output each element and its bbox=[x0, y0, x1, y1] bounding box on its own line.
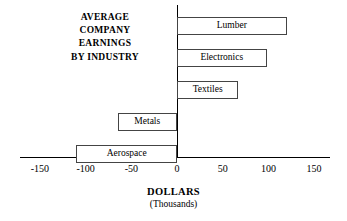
bar-label: Metals bbox=[134, 117, 160, 127]
x-axis-title: DOLLARS (Thousands) bbox=[0, 185, 347, 210]
chart-title-line-1: AVERAGE bbox=[42, 11, 168, 24]
x-tick-50: 50 bbox=[218, 163, 228, 175]
x-tick-100: 100 bbox=[261, 163, 276, 175]
bar-label: Textiles bbox=[193, 85, 223, 95]
bar-aerospace: Aerospace bbox=[76, 145, 177, 163]
bar-electronics: Electronics bbox=[177, 49, 267, 67]
x-axis-title-sub: (Thousands) bbox=[0, 198, 347, 210]
chart-title-line-2: COMPANY bbox=[42, 24, 168, 37]
x-tick-neg150: -150 bbox=[31, 163, 49, 175]
bar-label: Lumber bbox=[217, 21, 247, 31]
earnings-bar-chart: LumberElectronicsTextilesMetalsAerospace… bbox=[0, 0, 347, 221]
bar-label: Electronics bbox=[200, 53, 243, 63]
bar-lumber: Lumber bbox=[177, 17, 287, 35]
chart-title: AVERAGECOMPANYEARNINGSBY INDUSTRY bbox=[42, 11, 168, 64]
chart-title-line-3: EARNINGS bbox=[42, 37, 168, 50]
bar-metals: Metals bbox=[118, 113, 177, 131]
x-tick-0: 0 bbox=[175, 163, 180, 175]
bar-textiles: Textiles bbox=[177, 81, 238, 99]
x-tick-neg100: -100 bbox=[76, 163, 94, 175]
chart-title-line-4: BY INDUSTRY bbox=[42, 51, 168, 64]
x-axis-title-main: DOLLARS bbox=[0, 185, 347, 198]
bar-label: Aerospace bbox=[107, 149, 147, 159]
x-tick-150: 150 bbox=[307, 163, 322, 175]
x-tick-neg50: -50 bbox=[125, 163, 138, 175]
